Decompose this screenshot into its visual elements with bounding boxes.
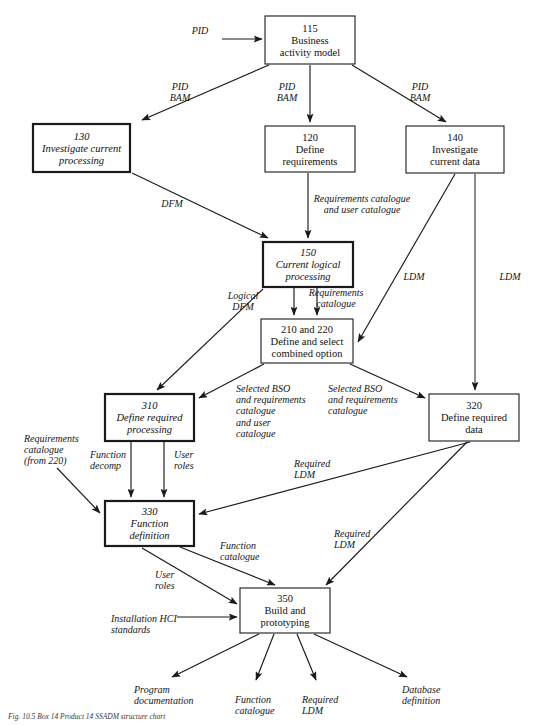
edge-label-line: roles (155, 580, 175, 591)
edge-label-program-documentation: Programdocumentation (133, 684, 193, 706)
process-box-310[interactable]: 310Define requiredprocessing (105, 394, 194, 441)
edge-label-line: documentation (134, 695, 193, 706)
edge-label-selected-bso-left: Selected BSOand requirementscatalogueand… (236, 383, 306, 439)
process-box-number: 120 (302, 132, 318, 143)
link-req-cat-220-to-330 (57, 468, 100, 513)
edge-label-line: catalogue (316, 298, 356, 309)
edge-label-line: Program (133, 684, 170, 695)
edge-label-line: Selected BSO (328, 383, 382, 394)
edge-label-logical-dfm: LogicalDFM (227, 290, 259, 312)
link-350-to-database-definition (314, 634, 407, 677)
edge-label-function-cat-out: Functioncatalogue (234, 694, 275, 716)
process-box-line: Investigate current (41, 143, 122, 154)
link-350-to-required-ldm (297, 634, 316, 680)
link-320-to-350 (326, 442, 467, 585)
process-box-line: Define required (441, 412, 508, 423)
edge-label-required-ldm-350: RequiredLDM (333, 528, 371, 550)
edge-label-line: Function (234, 694, 271, 705)
process-box-line: prototyping (261, 617, 311, 628)
process-box-line: activity model (280, 47, 340, 58)
process-box-line: processing (58, 155, 104, 166)
edge-label-line: and user (236, 417, 271, 428)
edge-label-dfm: DFM (160, 198, 183, 209)
process-box-line: Investigate (432, 144, 478, 155)
edge-label-line: Required (301, 694, 339, 705)
edge-label-line: Requirements catalogue (313, 193, 411, 204)
process-box-line: Build and (264, 605, 306, 616)
edge-label-ldm-right: LDM (498, 271, 521, 282)
process-box-line: Define (296, 144, 325, 155)
edge-label-line: catalogue (236, 428, 276, 439)
process-box-320[interactable]: 320Define requireddata (429, 394, 519, 441)
process-box-line: data (465, 424, 483, 435)
edge-label-required-ldm-330: RequiredLDM (293, 458, 331, 480)
process-box-350[interactable]: 350Build andprototyping (240, 588, 330, 633)
edge-label-line: Function (219, 540, 256, 551)
link-130-to-150 (132, 173, 268, 238)
edge-label-line: catalogue (220, 551, 260, 562)
process-box-line: Define required (116, 412, 184, 423)
edge-label-pid-bam-right: PIDBAM (410, 81, 431, 103)
edge-label-line: LDM (333, 539, 356, 550)
process-box-120[interactable]: 120Definerequirements (265, 126, 355, 172)
edge-label-line: Required (293, 458, 331, 469)
edge-label-pid-bam-centre: PIDBAM (277, 81, 298, 103)
edge-label-line: catalogue (24, 444, 64, 455)
edge-label-line: Database (401, 684, 441, 695)
process-box-330[interactable]: 330Functiondefinition (105, 501, 194, 546)
edge-label-required-ldm-out: RequiredLDM (301, 694, 339, 716)
edge-label-line: Function (89, 449, 126, 460)
process-box-150[interactable]: 150Current logicalprocessing (263, 242, 353, 287)
edge-label-line: PID (278, 81, 296, 92)
edge-label-line: LDM (293, 469, 316, 480)
process-box-line: requirements (283, 156, 338, 167)
process-box-number: 350 (277, 593, 293, 604)
process-box-line: Business (291, 35, 328, 46)
edge-label-line: catalogue (235, 705, 275, 716)
edge-label-req-cat-from-220: Requirementscatalogue(from 220) (23, 433, 79, 467)
process-box-115[interactable]: 115Businessactivity model (265, 16, 355, 64)
link-115-to-130 (142, 65, 269, 120)
edge-label-line: catalogue (328, 405, 368, 416)
process-box-210and220[interactable]: 210 and 220Define and selectcombined opt… (261, 319, 353, 363)
edge-label-line: BAM (170, 92, 191, 103)
edge-label-function-catalogue: Functioncatalogue (219, 540, 260, 562)
figure-caption: Fig. 10.5 Box 14 Product 14 SSADM struct… (7, 712, 166, 721)
edge-label-line: User (155, 569, 175, 580)
process-box-number: 115 (302, 23, 317, 34)
edge-label-line: definition (402, 695, 440, 706)
edge-label-requirements-cat: Requirementscatalogue (308, 287, 364, 309)
process-box-line: current data (430, 156, 480, 167)
process-box-line: Define and select (271, 336, 344, 347)
process-box-line: processing (126, 424, 172, 435)
edge-label-line: catalogue (236, 405, 276, 416)
edge-label-line: and requirements (236, 394, 306, 405)
edge-label-line: LDM (301, 705, 324, 716)
link-320-to-330 (199, 442, 470, 514)
process-box-number: 140 (447, 132, 463, 143)
edge-label-line: PID (191, 25, 209, 36)
edge-label-user-roles-330: Userroles (174, 449, 194, 471)
edge-label-line: BAM (277, 92, 298, 103)
edge-label-line: LDM (402, 271, 425, 282)
link-350-to-function-catalogue (256, 634, 274, 680)
process-box-line: Current logical (276, 259, 341, 270)
edge-label-database-definition: Databasedefinition (401, 684, 441, 706)
edge-label-line: DFM (231, 301, 254, 312)
edge-label-line: PID (411, 81, 429, 92)
edge-label-line: BAM (410, 92, 431, 103)
process-box-number: 130 (74, 131, 91, 142)
edge-label-line: Logical (227, 290, 259, 301)
process-box-130[interactable]: 130Investigate currentprocessing (33, 124, 130, 172)
edge-label-line: Selected BSO (236, 383, 290, 394)
process-box-number: 330 (141, 506, 159, 517)
process-box-number: 150 (300, 247, 317, 258)
process-box-140[interactable]: 140Investigatecurrent data (406, 126, 504, 173)
flowchart-canvas: 115Businessactivity model130Investigate … (0, 0, 534, 726)
box-layer: 115Businessactivity model130Investigate … (33, 16, 519, 633)
edge-label-pid-input: PID (191, 25, 209, 36)
edge-label-line: PID (171, 81, 189, 92)
process-box-line: definition (129, 530, 169, 541)
edge-label-line: DFM (160, 198, 183, 209)
edge-label-req-cat-user-cat: Requirements catalogueand user catalogue (313, 193, 411, 215)
